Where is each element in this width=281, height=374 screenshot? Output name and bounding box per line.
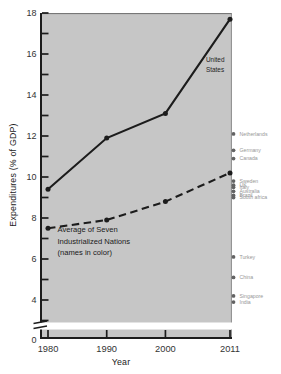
country-dot bbox=[232, 157, 236, 161]
x-tick-label: 1980 bbox=[38, 344, 59, 354]
country-dot bbox=[232, 148, 236, 152]
country-dot bbox=[232, 179, 236, 183]
country-dot bbox=[232, 196, 236, 200]
y-tick-label: 4 bbox=[31, 295, 36, 305]
x-tick-label: 2000 bbox=[155, 344, 176, 354]
y-origin-label: 0 bbox=[31, 335, 36, 345]
annotation-average: Average of Seven bbox=[58, 225, 118, 234]
annotation-united-states: States bbox=[206, 66, 224, 73]
annotation-united-states: United bbox=[206, 56, 225, 63]
chart-figure: 181614121086401980199020002011Netherland… bbox=[0, 0, 281, 374]
y-axis-title: Expenditures (% of GDP) bbox=[6, 5, 20, 345]
axis-break-band bbox=[34, 323, 233, 330]
country-label: South africa bbox=[240, 194, 268, 200]
country-label: Turkey bbox=[240, 254, 256, 260]
y-tick-label: 10 bbox=[26, 172, 36, 182]
y-tick-label: 18 bbox=[26, 8, 36, 18]
country-label: India bbox=[240, 299, 251, 305]
country-dot bbox=[232, 300, 236, 304]
country-dot bbox=[232, 255, 236, 259]
country-dot bbox=[232, 132, 236, 136]
data-point-marker bbox=[46, 187, 51, 192]
country-dot bbox=[232, 189, 236, 193]
chart-canvas: 181614121086401980199020002011Netherland… bbox=[0, 0, 281, 374]
country-label: Germany bbox=[240, 147, 262, 153]
data-point-marker bbox=[163, 111, 168, 116]
data-point-marker bbox=[228, 170, 233, 175]
data-point-marker bbox=[228, 17, 233, 22]
country-dot bbox=[232, 276, 236, 280]
country-dot bbox=[232, 185, 236, 189]
annotation-average: Industrialized Nations bbox=[58, 237, 131, 246]
x-tick-label: 1990 bbox=[96, 344, 117, 354]
country-label: Singapore bbox=[240, 293, 264, 299]
x-axis-title: Year bbox=[0, 357, 242, 367]
country-label: China bbox=[240, 274, 254, 280]
y-tick-label: 12 bbox=[26, 131, 36, 141]
data-point-marker bbox=[104, 218, 109, 223]
y-tick-label: 8 bbox=[31, 213, 36, 223]
x-tick-label: 2011 bbox=[220, 344, 240, 354]
country-label: Canada bbox=[240, 155, 258, 161]
data-point-marker bbox=[163, 199, 168, 204]
y-tick-label: 14 bbox=[26, 90, 36, 100]
country-dot bbox=[232, 294, 236, 298]
y-tick-label: 6 bbox=[31, 254, 36, 264]
country-label: Netherlands bbox=[240, 131, 268, 137]
data-point-marker bbox=[104, 136, 109, 141]
annotation-average: (names in color) bbox=[58, 248, 113, 257]
data-point-marker bbox=[46, 226, 51, 231]
plot-area bbox=[40, 13, 232, 339]
y-tick-label: 16 bbox=[26, 49, 36, 59]
